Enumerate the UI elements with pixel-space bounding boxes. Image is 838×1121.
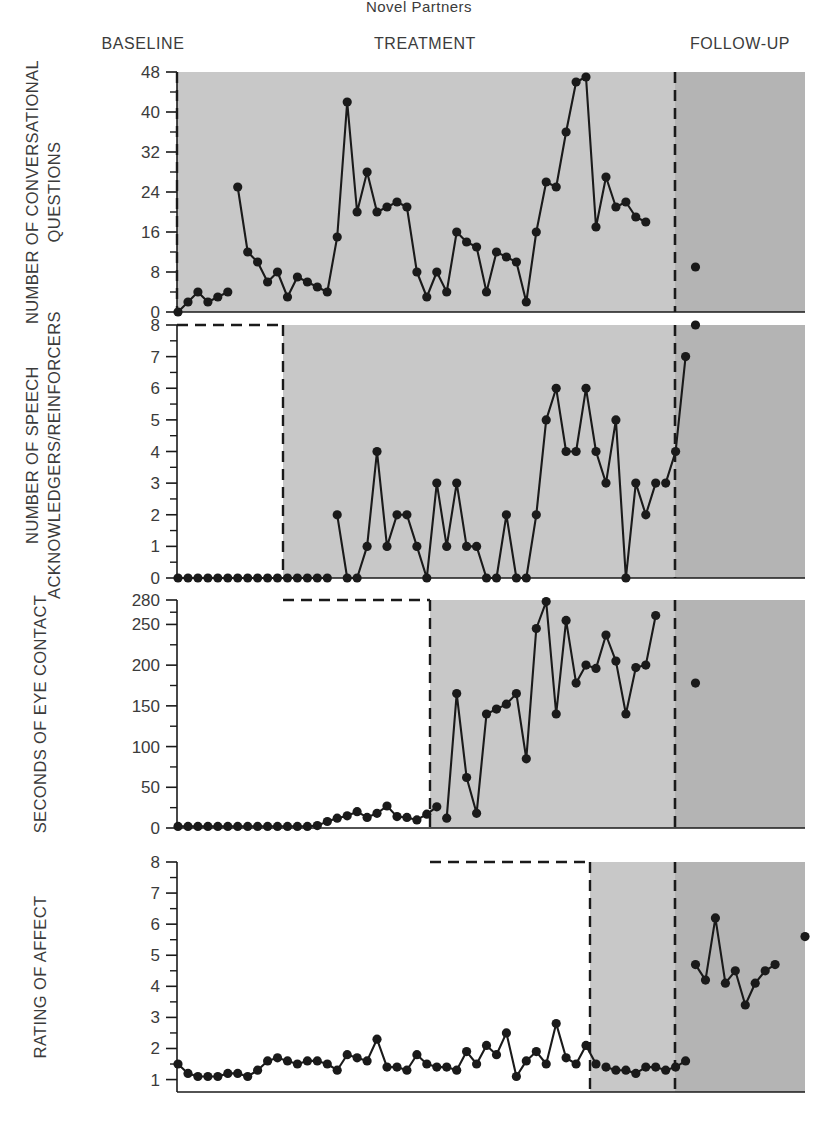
data-point[interactable]	[313, 821, 322, 830]
data-point[interactable]	[542, 597, 551, 606]
data-point[interactable]	[422, 1059, 431, 1068]
data-point[interactable]	[243, 247, 252, 256]
data-point[interactable]	[661, 479, 670, 488]
data-point[interactable]	[522, 573, 531, 582]
data-point[interactable]	[572, 77, 581, 86]
data-point[interactable]	[213, 573, 222, 582]
data-point[interactable]	[183, 822, 192, 831]
data-point[interactable]	[641, 217, 650, 226]
data-point[interactable]	[482, 1041, 491, 1050]
data-point[interactable]	[213, 292, 222, 301]
data-point[interactable]	[263, 822, 272, 831]
data-point[interactable]	[173, 307, 182, 316]
data-point[interactable]	[502, 1028, 511, 1037]
data-point[interactable]	[771, 960, 780, 969]
data-point[interactable]	[761, 966, 770, 975]
data-point[interactable]	[183, 573, 192, 582]
data-point[interactable]	[581, 661, 590, 670]
data-point[interactable]	[581, 1041, 590, 1050]
data-point[interactable]	[432, 267, 441, 276]
data-point[interactable]	[422, 573, 431, 582]
data-point[interactable]	[382, 542, 391, 551]
data-point[interactable]	[283, 1056, 292, 1065]
data-point[interactable]	[273, 1053, 282, 1062]
data-point[interactable]	[173, 822, 182, 831]
data-point[interactable]	[303, 573, 312, 582]
data-point[interactable]	[372, 809, 381, 818]
data-point[interactable]	[621, 197, 630, 206]
data-point[interactable]	[363, 1056, 372, 1065]
data-point[interactable]	[422, 292, 431, 301]
data-point[interactable]	[372, 207, 381, 216]
data-point[interactable]	[193, 573, 202, 582]
data-point[interactable]	[741, 1000, 750, 1009]
data-point[interactable]	[631, 479, 640, 488]
data-point[interactable]	[462, 542, 471, 551]
data-point[interactable]	[681, 352, 690, 361]
data-point[interactable]	[442, 1063, 451, 1072]
data-point[interactable]	[233, 822, 242, 831]
data-point[interactable]	[363, 542, 372, 551]
data-point[interactable]	[422, 810, 431, 819]
data-point[interactable]	[641, 661, 650, 670]
data-point[interactable]	[442, 287, 451, 296]
data-point[interactable]	[641, 1063, 650, 1072]
data-point[interactable]	[233, 573, 242, 582]
data-point[interactable]	[263, 573, 272, 582]
data-point[interactable]	[621, 1066, 630, 1075]
data-point[interactable]	[462, 773, 471, 782]
data-point[interactable]	[323, 573, 332, 582]
data-point[interactable]	[442, 814, 451, 823]
data-point[interactable]	[263, 277, 272, 286]
data-point[interactable]	[492, 705, 501, 714]
data-point[interactable]	[243, 573, 252, 582]
data-point[interactable]	[800, 932, 809, 941]
data-point[interactable]	[412, 267, 421, 276]
data-point[interactable]	[392, 197, 401, 206]
data-point[interactable]	[333, 510, 342, 519]
data-point[interactable]	[303, 277, 312, 286]
data-point[interactable]	[313, 282, 322, 291]
data-point[interactable]	[581, 384, 590, 393]
data-point[interactable]	[691, 960, 700, 969]
data-point[interactable]	[601, 630, 610, 639]
data-point[interactable]	[323, 287, 332, 296]
data-point[interactable]	[432, 802, 441, 811]
data-point[interactable]	[223, 1069, 232, 1078]
data-point[interactable]	[173, 1059, 182, 1068]
data-point[interactable]	[402, 202, 411, 211]
data-point[interactable]	[203, 573, 212, 582]
data-point[interactable]	[223, 573, 232, 582]
data-point[interactable]	[562, 127, 571, 136]
data-point[interactable]	[392, 1063, 401, 1072]
data-point[interactable]	[353, 1053, 362, 1062]
data-point[interactable]	[203, 297, 212, 306]
data-point[interactable]	[532, 624, 541, 633]
data-point[interactable]	[432, 479, 441, 488]
data-point[interactable]	[273, 822, 282, 831]
data-point[interactable]	[492, 247, 501, 256]
data-point[interactable]	[402, 1066, 411, 1075]
data-point[interactable]	[183, 297, 192, 306]
data-point[interactable]	[631, 212, 640, 221]
data-point[interactable]	[333, 814, 342, 823]
data-point[interactable]	[412, 1050, 421, 1059]
data-point[interactable]	[283, 822, 292, 831]
data-point[interactable]	[392, 510, 401, 519]
data-point[interactable]	[213, 1072, 222, 1081]
data-point[interactable]	[611, 202, 620, 211]
data-point[interactable]	[243, 822, 252, 831]
data-point[interactable]	[313, 573, 322, 582]
data-point[interactable]	[303, 822, 312, 831]
data-point[interactable]	[552, 384, 561, 393]
data-point[interactable]	[591, 1059, 600, 1068]
data-point[interactable]	[572, 1059, 581, 1068]
data-point[interactable]	[512, 1072, 521, 1081]
data-point[interactable]	[631, 663, 640, 672]
data-point[interactable]	[372, 447, 381, 456]
data-point[interactable]	[581, 72, 590, 81]
data-point[interactable]	[542, 415, 551, 424]
data-point[interactable]	[293, 822, 302, 831]
data-point[interactable]	[273, 573, 282, 582]
data-point[interactable]	[651, 479, 660, 488]
